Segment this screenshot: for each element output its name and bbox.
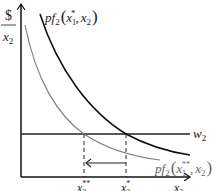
tick-x2-star: x2* [120, 179, 130, 191]
economics-diagram: $ x2 w2 pf2(x1*,x2) pf2(x1**,x2) x2** x2… [0, 0, 223, 191]
curve-shifted-label: pf2(x1**,x2) [154, 158, 212, 178]
tick-x2-double-star: x2** [76, 179, 90, 191]
wage-line-label: w2 [193, 126, 206, 143]
curve-mvp-shifted [25, 25, 160, 160]
y-axis-label-dollar: $ [5, 8, 12, 23]
x-axis-label: x2 [173, 181, 183, 191]
curve-original-label: pf2(x1*,x2) [44, 7, 98, 27]
y-axis-label-x: x2 [2, 29, 13, 46]
